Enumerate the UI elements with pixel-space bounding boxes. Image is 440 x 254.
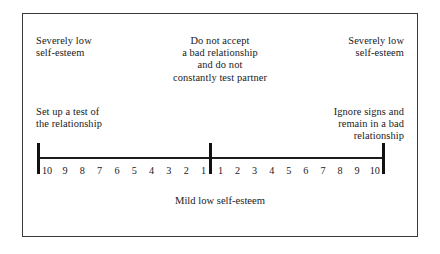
scale-number-left-9: 9 [61, 163, 70, 179]
scale-number-right-4: 4 [267, 163, 276, 179]
scale-number-right-3: 3 [250, 163, 259, 179]
axis-tick-left-end [37, 143, 40, 174]
scale-number-right-5: 5 [284, 163, 293, 179]
scale-number-left-3: 3 [164, 163, 173, 179]
scale-numbers-right: 12345678910 [216, 163, 380, 179]
scale-number-left-7: 7 [95, 163, 104, 179]
scale-number-right-6: 6 [301, 163, 310, 179]
scale-number-right-7: 7 [318, 163, 327, 179]
annotation-left-set-up-test: Set up a test of the relationship [36, 106, 176, 130]
axis-tick-center [209, 143, 212, 174]
scale-number-left-10: 10 [42, 163, 52, 179]
scale-number-left-4: 4 [147, 163, 156, 179]
caption-mild-low-self-esteem: Mild low self-esteem [22, 194, 418, 207]
scale-number-left-1: 1 [199, 163, 208, 179]
scale-number-left-2: 2 [182, 163, 191, 179]
axis-tick-right-end [382, 143, 385, 174]
annotation-right-ignore-signs: Ignore signs and remain in a bad relatio… [276, 106, 404, 143]
scale-number-left-5: 5 [130, 163, 139, 179]
scale-number-right-8: 8 [336, 163, 345, 179]
bipolar-number-line: 10987654321 12345678910 [38, 143, 384, 185]
scale-number-right-1: 1 [216, 163, 225, 179]
scale-number-left-6: 6 [112, 163, 121, 179]
scale-number-left-8: 8 [78, 163, 87, 179]
scale-numbers-left: 10987654321 [42, 163, 208, 179]
scale-number-right-10: 10 [370, 163, 380, 179]
self-esteem-scale-figure: Severely low self-esteem Do not accept a… [0, 0, 440, 254]
scale-number-right-2: 2 [233, 163, 242, 179]
scale-number-right-9: 9 [353, 163, 362, 179]
annotation-right-severely-low: Severely low self-esteem [276, 35, 404, 59]
